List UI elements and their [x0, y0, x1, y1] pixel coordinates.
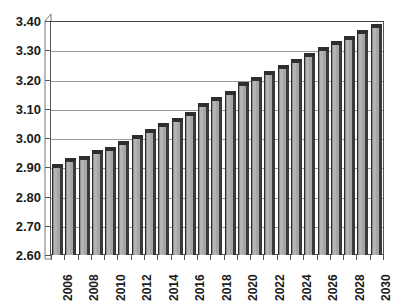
bar-side-face [73, 158, 76, 255]
bar [331, 41, 342, 255]
bar-top-face [304, 53, 315, 57]
y-axis-tick-label: 3.30 [0, 44, 41, 57]
x-axis-tick [144, 255, 145, 260]
bar [264, 71, 275, 255]
bar [211, 97, 222, 255]
bar [291, 59, 302, 255]
bar-side-face [193, 112, 196, 255]
bar [225, 91, 236, 255]
bar-top-face [172, 118, 183, 122]
x-axis-tick [171, 255, 172, 260]
bar-top-face [105, 147, 116, 151]
x-axis-tick-label: 2028 [354, 274, 366, 301]
bar [105, 147, 116, 255]
bar-side-face [166, 123, 169, 255]
x-axis-tick [104, 255, 105, 260]
bar-top-face [371, 24, 382, 28]
x-axis-tick [263, 255, 264, 260]
bar [118, 141, 129, 255]
y-axis-tick-label: 2.60 [0, 249, 41, 262]
x-axis-tick [157, 255, 158, 260]
bar-top-face [318, 47, 329, 51]
x-axis-tick [184, 255, 185, 260]
bar-side-face [299, 59, 302, 255]
bar-chart: 3.403.303.203.103.002.902.802.702.60 200… [0, 0, 394, 308]
x-axis-tick-label: 2014 [168, 274, 180, 301]
bar-side-face [259, 77, 262, 255]
bar-top-face [331, 41, 342, 45]
bar-side-face [219, 97, 222, 255]
bar [132, 135, 143, 255]
x-axis-tick-label: 2010 [115, 274, 127, 301]
bar [65, 158, 76, 255]
bar-side-face [272, 71, 275, 255]
bar-top-face [251, 77, 262, 81]
bar-side-face [180, 118, 183, 255]
bar [198, 103, 209, 255]
bar-side-face [206, 103, 209, 255]
x-axis-tick [317, 255, 318, 260]
x-axis-tick [78, 255, 79, 260]
bar-side-face [339, 41, 342, 255]
bar-top-face [92, 150, 103, 154]
bar-top-face [65, 158, 76, 162]
bar-top-face [344, 36, 355, 40]
x-axis-tick-label: 2008 [88, 274, 100, 301]
bar-top-face [264, 71, 275, 75]
x-axis-tick [383, 255, 384, 260]
x-axis-labels: 2006200820102012201420162018202020222024… [51, 261, 391, 308]
x-axis-tick-label: 2026 [327, 274, 339, 301]
x-axis-tick [356, 255, 357, 260]
x-axis-tick [51, 255, 52, 260]
bar-top-face [357, 30, 368, 34]
x-axis-tick-label: 2020 [247, 274, 259, 301]
x-axis-tick-label: 2016 [194, 274, 206, 301]
bar-side-face [60, 164, 63, 255]
bar [238, 82, 249, 255]
bar-side-face [140, 135, 143, 255]
bar-side-face [100, 150, 103, 255]
bar-top-face [225, 91, 236, 95]
bar-side-face [233, 91, 236, 255]
bar-top-face [79, 156, 90, 160]
bar-side-face [113, 147, 116, 255]
x-axis-tick [224, 255, 225, 260]
bar-top-face [291, 59, 302, 63]
x-axis-tick [117, 255, 118, 260]
bar [251, 77, 262, 255]
bar [145, 129, 156, 255]
bar-top-face [145, 129, 156, 133]
bar-side-face [312, 53, 315, 255]
x-axis-tick [303, 255, 304, 260]
bar [278, 65, 289, 255]
x-axis-tick [64, 255, 65, 260]
bar-side-face [153, 129, 156, 255]
bar-top-face [278, 65, 289, 69]
bar-top-face [185, 112, 196, 116]
bar [357, 30, 368, 255]
bar [371, 24, 382, 255]
x-axis-tick [277, 255, 278, 260]
bar-top-face [158, 123, 169, 127]
bar-side-face [246, 82, 249, 255]
y-axis-tick-label: 3.40 [0, 15, 41, 28]
bar [92, 150, 103, 255]
x-axis-tick [91, 255, 92, 260]
x-axis-tick [343, 255, 344, 260]
bar [185, 112, 196, 255]
y-axis-labels: 3.403.303.203.103.002.902.802.702.60 [0, 0, 44, 308]
bar-side-face [286, 65, 289, 255]
x-axis-tick-label: 2012 [141, 274, 153, 301]
x-axis-tick [370, 255, 371, 260]
bar-top-face [52, 164, 63, 168]
x-axis-tick [131, 255, 132, 260]
y-axis-tick-label: 2.70 [0, 220, 41, 233]
bar-top-face [132, 135, 143, 139]
bar-top-face [238, 82, 249, 86]
x-axis-tick [210, 255, 211, 260]
x-axis-tick [290, 255, 291, 260]
bar-side-face [352, 36, 355, 255]
x-axis-tick [250, 255, 251, 260]
x-axis-tick-label: 2022 [274, 274, 286, 301]
x-axis-tick-label: 2006 [62, 274, 74, 301]
